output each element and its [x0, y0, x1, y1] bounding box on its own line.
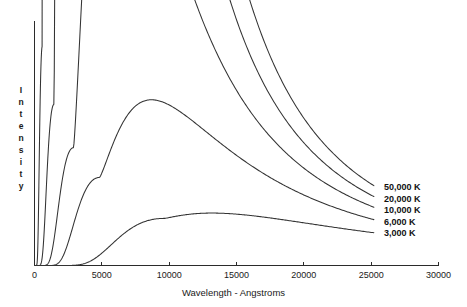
x-tick-label: 15000	[224, 270, 249, 280]
x-axis-ticks	[35, 262, 439, 266]
y-axis-title-letter: t	[14, 108, 28, 120]
y-axis-title-letter: y	[14, 180, 28, 192]
y-axis-title-letter: n	[14, 132, 28, 144]
y-axis-title-letter: e	[14, 120, 28, 132]
y-axis-title-letter: n	[14, 96, 28, 108]
x-tick-label: 0	[32, 270, 37, 280]
x-axis-title: Wavelength - Angstroms	[0, 287, 467, 298]
x-tick-label: 20000	[291, 270, 316, 280]
y-axis-title: Intensity	[14, 84, 28, 192]
y-axis-title-letter: i	[14, 156, 28, 168]
blackbody-curves	[35, 0, 374, 266]
y-axis-title-letter: s	[14, 144, 28, 156]
legend-item-50000k: 50,000 K	[384, 182, 464, 194]
legend-item-20000k: 20,000 K	[384, 194, 464, 206]
y-axis-title-letter: t	[14, 168, 28, 180]
legend-item-10000k: 10,000 K	[384, 205, 464, 217]
legend-item-3000k: 3,000 K	[384, 228, 464, 240]
axes-group	[35, 21, 439, 266]
x-axis-tick-labels: 050001000015000200002500030000	[32, 270, 451, 280]
y-axis-title-letter: I	[14, 84, 28, 96]
blackbody-spectrum-figure: 050001000015000200002500030000 Intensity…	[0, 0, 467, 307]
x-tick-label: 25000	[359, 270, 384, 280]
legend: 50,000 K20,000 K10,000 K6,000 K3,000 K	[384, 182, 464, 240]
curve-3000k	[35, 213, 374, 265]
x-tick-label: 10000	[157, 270, 182, 280]
legend-item-6000k: 6,000 K	[384, 217, 464, 229]
curve-6000k	[35, 100, 374, 266]
x-tick-label: 5000	[92, 270, 112, 280]
plot-area: 050001000015000200002500030000	[0, 0, 467, 307]
x-tick-label: 30000	[426, 270, 451, 280]
